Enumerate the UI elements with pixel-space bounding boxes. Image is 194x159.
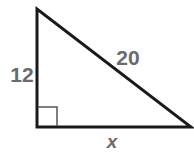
triangle-diagram: 12 20 x bbox=[0, 0, 194, 159]
right-angle-marker bbox=[38, 107, 57, 126]
right-triangle bbox=[37, 9, 191, 127]
horizontal-leg-label: x bbox=[106, 131, 119, 152]
vertical-leg-label: 12 bbox=[10, 63, 33, 86]
hypotenuse-label: 20 bbox=[116, 46, 139, 69]
